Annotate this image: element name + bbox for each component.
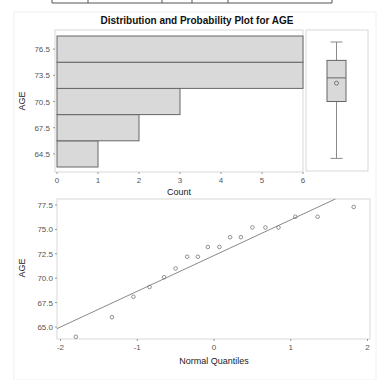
x-tick-label: 2 xyxy=(365,343,370,352)
y-tick-label: 67.5 xyxy=(34,124,50,133)
y-tick-label: 70.5 xyxy=(34,98,50,107)
boxplot-panel xyxy=(306,30,368,171)
y-tick-label: 72.5 xyxy=(37,250,53,259)
probability-plot-panel: 65.067.570.072.575.077.5 -2-1012 Normal … xyxy=(17,199,370,366)
histogram-bar xyxy=(57,115,139,141)
probability-y-axis-title: AGE xyxy=(17,258,27,277)
chart-canvas: Distribution and Probability Plot for AG… xyxy=(0,0,387,380)
histogram-bar xyxy=(57,141,98,167)
x-tick-label: -2 xyxy=(57,343,65,352)
y-tick-label: 77.5 xyxy=(37,201,53,210)
histogram-y-ticks: 64.567.570.573.576.5 xyxy=(34,45,55,159)
x-tick-label: 1 xyxy=(96,176,101,185)
probability-x-axis-title: Normal Quantiles xyxy=(179,356,249,366)
y-tick-label: 64.5 xyxy=(34,150,50,159)
x-tick-label: -1 xyxy=(134,343,142,352)
histogram-bar xyxy=(57,88,180,114)
chart-title: Distribution and Probability Plot for AG… xyxy=(101,15,294,26)
x-tick-label: 0 xyxy=(212,343,217,352)
x-tick-label: 5 xyxy=(260,176,265,185)
y-tick-label: 73.5 xyxy=(34,71,50,80)
probability-y-ticks: 65.067.570.072.575.077.5 xyxy=(37,201,57,332)
histogram-bar xyxy=(57,36,303,62)
x-tick-label: 6 xyxy=(301,176,306,185)
x-tick-label: 3 xyxy=(178,176,183,185)
y-tick-label: 75.0 xyxy=(37,225,53,234)
histogram-bar xyxy=(57,62,303,88)
probability-plot-area xyxy=(57,199,370,339)
y-tick-label: 67.5 xyxy=(37,299,53,308)
y-tick-label: 76.5 xyxy=(34,45,50,54)
histogram-y-axis-title: AGE xyxy=(17,91,27,110)
histogram-x-axis-title: Count xyxy=(167,187,192,197)
x-tick-label: 1 xyxy=(289,343,294,352)
x-tick-label: 0 xyxy=(55,176,60,185)
y-tick-label: 70.0 xyxy=(37,274,53,283)
probability-x-ticks: -2-1012 xyxy=(57,339,370,352)
histogram-panel: 64.567.570.573.576.5 0123456 Count AGE xyxy=(17,30,306,197)
y-tick-label: 65.0 xyxy=(37,323,53,332)
x-tick-label: 4 xyxy=(219,176,224,185)
histogram-x-ticks: 0123456 xyxy=(55,172,306,185)
x-tick-label: 2 xyxy=(137,176,142,185)
cropped-table-edge xyxy=(52,0,332,3)
